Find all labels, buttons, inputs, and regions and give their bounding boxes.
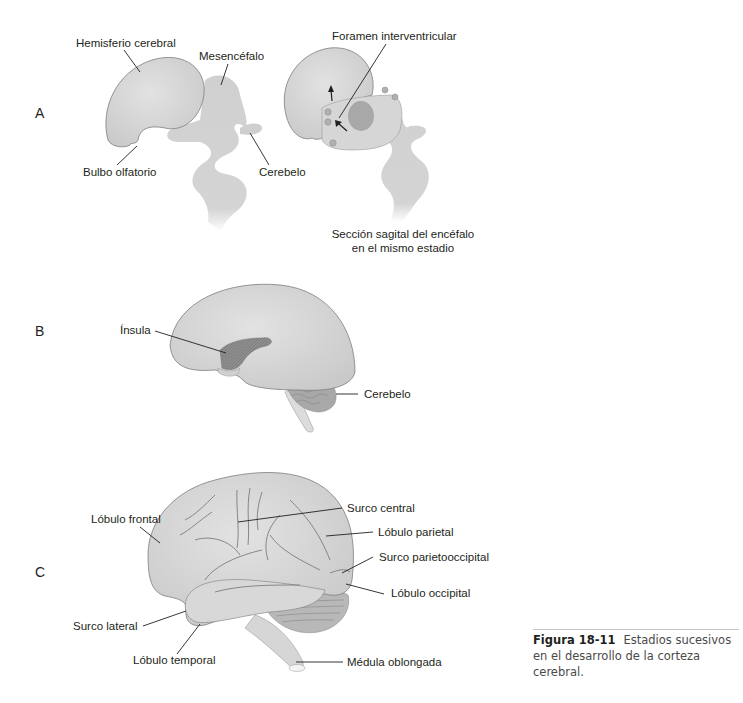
label-surco-parietooccipital: Surco parietooccipital: [379, 551, 489, 564]
panel-c-brain: [148, 473, 353, 672]
panel-letter-a: A: [35, 105, 44, 121]
panel-a-sagittal-section: [284, 48, 429, 222]
label-insula: Ínsula: [120, 324, 151, 337]
label-mesencefalo: Mesencéfalo: [199, 50, 264, 63]
figure-number: Figura 18-11: [533, 633, 615, 647]
figure-caption: Figura 18-11Estadios sucesivos en el des…: [533, 632, 743, 680]
label-foramen-interventricular: Foramen interventricular: [332, 30, 457, 43]
label-lobulo-temporal: Lóbulo temporal: [133, 654, 215, 667]
label-cerebelo-a: Cerebelo: [259, 166, 306, 179]
panel-letter-c: C: [35, 564, 45, 580]
label-medula-oblongada: Médula oblongada: [347, 656, 442, 669]
label-lobulo-frontal: Lóbulo frontal: [91, 513, 161, 526]
panel-b-brain: [170, 284, 355, 432]
label-seccion-sagital-line1: Sección sagital del encéfalo: [328, 228, 478, 241]
label-surco-lateral: Surco lateral: [73, 620, 138, 633]
label-lobulo-parietal: Lóbulo parietal: [378, 526, 453, 539]
panel-a-lateral-view: [106, 57, 262, 232]
label-surco-central: Surco central: [347, 502, 415, 515]
caption-divider: [533, 629, 739, 630]
label-seccion-sagital-line2: en el mismo estadio: [328, 242, 478, 255]
label-bulbo-olfatorio: Bulbo olfatorio: [83, 166, 157, 179]
panel-letter-b: B: [35, 323, 44, 339]
label-lobulo-occipital: Lóbulo occipital: [391, 587, 470, 600]
label-hemisferio-cerebral: Hemisferio cerebral: [76, 37, 176, 50]
label-cerebelo-b: Cerebelo: [364, 388, 411, 401]
